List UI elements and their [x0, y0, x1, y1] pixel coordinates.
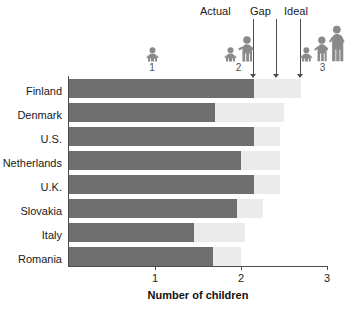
x-tick-1	[155, 266, 156, 270]
child-figure-icon	[238, 36, 254, 62]
icon-marker-group-3	[300, 24, 345, 62]
category-label-italy: Italy	[0, 229, 62, 241]
adult-figure-icon	[329, 25, 345, 62]
x-tick-label-1: 1	[145, 272, 165, 284]
annotation-label-gap: Gap	[250, 5, 271, 17]
bar-segment-actual	[69, 247, 213, 266]
category-label-romania: Romania	[0, 253, 62, 265]
category-label-finland: Finland	[0, 85, 62, 97]
x-axis-line	[68, 266, 328, 267]
x-tick-2	[241, 266, 242, 270]
category-label-slovakia: Slovakia	[0, 205, 62, 217]
category-label-uk: U.K.	[0, 181, 62, 193]
icon-marker-label-1: 1	[140, 62, 164, 73]
icon-marker-group-1	[140, 38, 164, 62]
icon-marker-label-2: 2	[222, 62, 255, 73]
bar-segment-actual	[69, 79, 254, 98]
child-figure-icon	[314, 36, 329, 62]
annotation-label-ideal: Ideal	[284, 5, 308, 17]
bar-segment-actual	[69, 103, 215, 122]
annotation-label-actual: Actual	[200, 5, 231, 17]
annotation-arrow-actual	[250, 74, 256, 78]
category-label-denmark: Denmark	[0, 109, 62, 121]
bar-segment-actual	[69, 199, 237, 218]
bar-segment-actual	[69, 127, 254, 146]
icon-marker-group-2	[222, 30, 255, 62]
bar-segment-actual	[69, 175, 254, 194]
baby-figure-icon	[146, 47, 159, 62]
x-axis-title: Number of children	[68, 289, 328, 302]
annotation-leader-gap	[276, 19, 277, 76]
baby-figure-icon	[300, 47, 313, 62]
icon-marker-label-3: 3	[300, 62, 345, 73]
baby-figure-icon	[224, 47, 237, 62]
x-tick-label-2: 2	[231, 272, 251, 284]
category-label-us: U.S.	[0, 133, 62, 145]
x-tick-3	[327, 266, 328, 270]
x-tick-label-3: 3	[317, 272, 337, 284]
category-label-netherlands: Netherlands	[0, 157, 62, 169]
bar-segment-actual	[69, 223, 194, 242]
chart-container: Actual Gap Ideal 1 2	[0, 0, 351, 311]
bar-segment-actual	[69, 151, 241, 170]
annotation-arrow-ideal	[297, 74, 303, 78]
annotation-arrow-gap	[273, 74, 279, 78]
